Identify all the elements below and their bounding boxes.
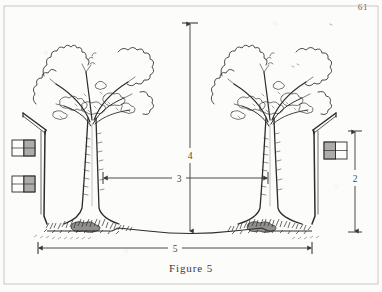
left-building	[12, 113, 47, 224]
dimension-label-total-width: 5	[173, 244, 178, 254]
dimension-vertical-height	[182, 23, 198, 231]
scanned-page: 61	[0, 0, 382, 292]
left-canopy-squiggle-a	[43, 45, 89, 76]
ground-line	[34, 219, 319, 239]
left-building-window-upper	[12, 140, 35, 156]
right-building-window	[324, 142, 347, 159]
left-canopy-squiggle-b	[33, 69, 56, 104]
right-building	[312, 113, 347, 224]
figure-illustration: 4 3 2 5	[0, 0, 382, 292]
left-building-window-lower	[12, 176, 35, 192]
figure-caption: Figure 5	[0, 262, 382, 274]
right-canopy-squiggle-a	[221, 45, 267, 76]
right-canopy-stipple	[231, 81, 313, 119]
dimension-canopy-gap	[103, 172, 268, 184]
dimension-label-vertical-height: 4	[188, 151, 193, 161]
right-tree	[211, 24, 332, 224]
dimension-label-building-height: 2	[353, 174, 358, 184]
right-canopy-squiggle-c	[296, 48, 332, 86]
dimension-label-canopy-gap: 3	[177, 174, 182, 184]
right-canopy-squiggle-b	[211, 69, 234, 104]
left-tree	[33, 45, 153, 224]
right-side-left-canopy-squiggle	[118, 48, 154, 86]
plate-border	[4, 6, 378, 284]
left-canopy-stipple	[53, 81, 135, 119]
